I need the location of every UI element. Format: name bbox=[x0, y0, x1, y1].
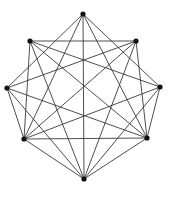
vertex-top bbox=[80, 11, 85, 16]
edge-B-D bbox=[136, 41, 147, 138]
vertex-right bbox=[157, 84, 162, 89]
vertex-upper-right bbox=[133, 38, 138, 43]
vertex-bottom bbox=[81, 176, 86, 181]
graph-diagram bbox=[0, 0, 174, 197]
edge-A-C bbox=[83, 14, 160, 87]
edge-D-E bbox=[84, 138, 147, 179]
edge-D-F bbox=[24, 138, 147, 139]
edge-F-H bbox=[24, 41, 30, 139]
vertex-lower-right bbox=[144, 135, 149, 140]
edge-C-H bbox=[30, 41, 160, 87]
vertex-upper-left bbox=[27, 38, 32, 43]
edge-A-E bbox=[83, 14, 84, 179]
edge-A-D bbox=[83, 14, 147, 138]
vertex-lower-left bbox=[21, 136, 26, 141]
edge-B-E bbox=[84, 41, 136, 179]
edge-F-G bbox=[7, 88, 24, 139]
edge-E-F bbox=[24, 139, 84, 179]
vertex-left bbox=[4, 85, 9, 90]
edge-B-G bbox=[7, 41, 136, 88]
edge-A-G bbox=[7, 14, 83, 88]
